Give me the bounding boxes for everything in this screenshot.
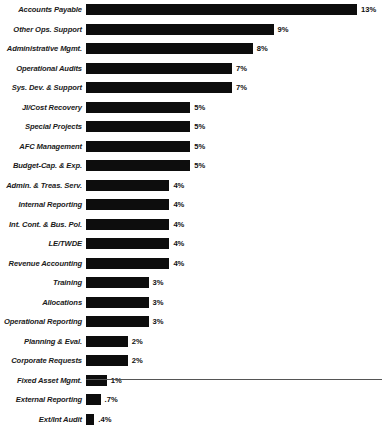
bar-row: LE/TWDE4% bbox=[0, 234, 389, 254]
bar-value-label: 3% bbox=[153, 278, 164, 287]
bar bbox=[86, 355, 128, 366]
bar-value-label: 4% bbox=[173, 200, 184, 209]
category-label: Accounts Payable bbox=[0, 5, 82, 14]
bar bbox=[86, 238, 169, 249]
bar-row: Internal Reporting4% bbox=[0, 195, 389, 215]
bar bbox=[86, 297, 149, 308]
category-label: Operational Reporting bbox=[0, 317, 82, 326]
bar-value-label: 9% bbox=[278, 25, 289, 34]
bar-row: Operational Audits7% bbox=[0, 59, 389, 79]
bar-value-label: 1% bbox=[111, 376, 122, 385]
bar-area: 7% bbox=[86, 59, 389, 79]
bar-value-label: 3% bbox=[153, 298, 164, 307]
bar bbox=[86, 199, 169, 210]
bar-row: External Reporting.7% bbox=[0, 390, 389, 410]
bar bbox=[86, 219, 169, 230]
bar-area: 1% bbox=[86, 371, 389, 391]
category-label: Ext/Int Audit bbox=[0, 415, 82, 424]
category-label: Administrative Mgmt. bbox=[0, 44, 82, 53]
bar-area: 2% bbox=[86, 351, 389, 371]
bar-value-label: 8% bbox=[257, 44, 268, 53]
bar-row: Training3% bbox=[0, 273, 389, 293]
bar-value-label: 3% bbox=[153, 317, 164, 326]
bar-area: .4% bbox=[86, 410, 389, 429]
category-label: Allocations bbox=[0, 298, 82, 307]
bar-rows: Accounts Payable13%Other Ops. Support9%A… bbox=[0, 0, 389, 429]
bar-row: Int. Cont. & Bus. Pol.4% bbox=[0, 215, 389, 235]
bar-area: 5% bbox=[86, 137, 389, 157]
bar-row: JI/Cost Recovery5% bbox=[0, 98, 389, 118]
bar-area: .7% bbox=[86, 390, 389, 410]
bar bbox=[86, 141, 190, 152]
bar-row: AFC Management5% bbox=[0, 137, 389, 157]
bar bbox=[86, 258, 169, 269]
category-label: AFC Management bbox=[0, 142, 82, 151]
bar bbox=[86, 121, 190, 132]
bar bbox=[86, 394, 101, 405]
category-label: JI/Cost Recovery bbox=[0, 103, 82, 112]
bar-value-label: .4% bbox=[98, 415, 111, 424]
bar-value-label: 2% bbox=[132, 337, 143, 346]
bar-area: 5% bbox=[86, 117, 389, 137]
bar-row: Revenue Accounting4% bbox=[0, 254, 389, 274]
bar-row: Administrative Mgmt.8% bbox=[0, 39, 389, 59]
bar bbox=[86, 4, 357, 15]
bar-value-label: 5% bbox=[194, 122, 205, 131]
bar-area: 4% bbox=[86, 215, 389, 235]
bar-area: 13% bbox=[86, 0, 389, 20]
bar-area: 4% bbox=[86, 195, 389, 215]
bar-area: 3% bbox=[86, 293, 389, 313]
bar-value-label: 5% bbox=[194, 142, 205, 151]
bar-row: Sys. Dev. & Support7% bbox=[0, 78, 389, 98]
bar-area: 7% bbox=[86, 78, 389, 98]
category-label: Internal Reporting bbox=[0, 200, 82, 209]
bar-value-label: 4% bbox=[173, 259, 184, 268]
bar-area: 2% bbox=[86, 332, 389, 352]
bar bbox=[86, 316, 149, 327]
bar bbox=[86, 63, 232, 74]
bar-row: Budget-Cap. & Exp.5% bbox=[0, 156, 389, 176]
category-label: Budget-Cap. & Exp. bbox=[0, 161, 82, 170]
bar-area: 5% bbox=[86, 98, 389, 118]
bar-value-label: 4% bbox=[173, 220, 184, 229]
bar-row: Planning & Eval.2% bbox=[0, 332, 389, 352]
bar bbox=[86, 24, 274, 35]
bar bbox=[86, 43, 253, 54]
bar-value-label: 4% bbox=[173, 181, 184, 190]
bar-value-label: 13% bbox=[361, 5, 376, 14]
bar-value-label: 7% bbox=[236, 64, 247, 73]
bar-area: 3% bbox=[86, 273, 389, 293]
bar-value-label: 7% bbox=[236, 83, 247, 92]
category-label: Operational Audits bbox=[0, 64, 82, 73]
category-label: Fixed Asset Mgmt. bbox=[0, 376, 82, 385]
bar bbox=[86, 414, 94, 425]
bar-area: 9% bbox=[86, 20, 389, 40]
bar-area: 4% bbox=[86, 254, 389, 274]
bar bbox=[86, 336, 128, 347]
bar-row: Other Ops. Support9% bbox=[0, 20, 389, 40]
bar bbox=[86, 102, 190, 113]
bar-row: Special Projects5% bbox=[0, 117, 389, 137]
bar-row: Fixed Asset Mgmt.1% bbox=[0, 371, 389, 391]
bar bbox=[86, 375, 107, 386]
bar-value-label: 2% bbox=[132, 356, 143, 365]
bar-row: Admin. & Treas. Serv.4% bbox=[0, 176, 389, 196]
bar-area: 8% bbox=[86, 39, 389, 59]
bar-value-label: 5% bbox=[194, 103, 205, 112]
category-label: Int. Cont. & Bus. Pol. bbox=[0, 220, 82, 229]
category-label: Revenue Accounting bbox=[0, 259, 82, 268]
bar-area: 3% bbox=[86, 312, 389, 332]
bar bbox=[86, 277, 149, 288]
category-label: Other Ops. Support bbox=[0, 25, 82, 34]
category-label: External Reporting bbox=[0, 395, 82, 404]
bar-area: 5% bbox=[86, 156, 389, 176]
category-label: Special Projects bbox=[0, 122, 82, 131]
bar-value-label: 5% bbox=[194, 161, 205, 170]
bar-row: Operational Reporting3% bbox=[0, 312, 389, 332]
category-label: Training bbox=[0, 278, 82, 287]
bar-value-label: .7% bbox=[105, 395, 118, 404]
bar-area: 4% bbox=[86, 234, 389, 254]
bar bbox=[86, 160, 190, 171]
bar bbox=[86, 82, 232, 93]
